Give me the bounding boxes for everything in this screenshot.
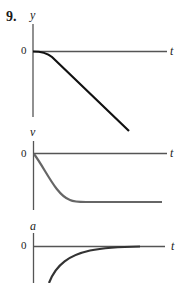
position-curve <box>33 52 129 132</box>
velocity-curve <box>34 154 162 202</box>
acceleration-graph <box>34 233 166 283</box>
graphs-canvas <box>0 0 187 283</box>
acceleration-curve <box>49 247 140 283</box>
velocity-graph <box>34 141 168 210</box>
position-graph <box>33 24 167 131</box>
